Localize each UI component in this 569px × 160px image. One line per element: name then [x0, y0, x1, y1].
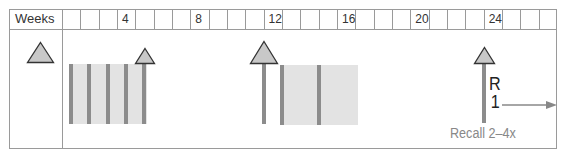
week-cell — [210, 9, 228, 29]
week-cell: 24 — [485, 9, 503, 29]
week-cell — [393, 9, 411, 29]
week-cell — [246, 9, 264, 29]
visit-bar — [124, 64, 128, 124]
week-cell — [466, 9, 484, 29]
week-cell — [173, 9, 191, 29]
weeks-label: Weeks — [9, 9, 63, 29]
triangle-icon — [26, 41, 55, 64]
week-cell — [228, 9, 246, 29]
week-cell: 12 — [265, 9, 283, 29]
week-cell — [448, 9, 466, 29]
visit-bar — [142, 64, 146, 124]
visit-bar — [280, 65, 284, 125]
week-cell: 16 — [338, 9, 356, 29]
triangle-icon — [473, 46, 496, 65]
week-cell: 20 — [411, 9, 429, 29]
triangle-icon — [249, 40, 279, 65]
week-cell — [320, 9, 338, 29]
recall-marker-label: R 1 — [489, 75, 501, 111]
visit-bar — [87, 64, 91, 124]
recall-note: Recall 2–4x — [450, 125, 516, 141]
week-cell — [81, 9, 99, 29]
week-cell — [283, 9, 301, 29]
week-cell: 8 — [191, 9, 209, 29]
week-cell: 4 — [118, 9, 136, 29]
visit-bar — [106, 64, 110, 124]
arrow-right-icon — [502, 101, 558, 109]
week-cell — [375, 9, 393, 29]
week-cell — [301, 9, 319, 29]
week-cell — [503, 9, 521, 29]
week-cell — [63, 9, 81, 29]
week-cell — [521, 9, 539, 29]
triangle-icon — [134, 47, 156, 65]
marker-stem — [482, 63, 486, 123]
visit-bar — [317, 65, 321, 125]
visit-bar — [69, 64, 73, 124]
week-cells: 4 8 12 16 20 24 — [63, 9, 557, 29]
weeks-header: Weeks 4 8 12 16 20 24 — [9, 9, 557, 30]
week-cell — [100, 9, 118, 29]
week-cell — [155, 9, 173, 29]
week-cell — [430, 9, 448, 29]
week-cell — [136, 9, 154, 29]
recall-marker-number: 1 — [489, 93, 501, 111]
marker-stem — [262, 63, 266, 124]
left-column-divider — [62, 29, 63, 149]
week-cell — [540, 9, 557, 29]
week-cell — [356, 9, 374, 29]
